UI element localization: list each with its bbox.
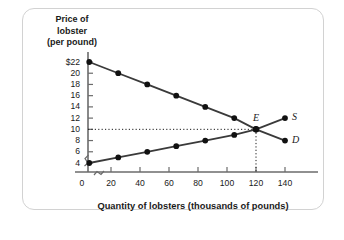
data-point-s — [144, 149, 150, 155]
y-tick-label: 16 — [54, 90, 80, 100]
y-tick-label: 14 — [54, 101, 80, 111]
data-point-d — [144, 82, 150, 88]
data-point-s — [202, 138, 208, 144]
data-point-s — [231, 132, 237, 138]
y-tick-label: 12 — [54, 113, 80, 123]
equilibrium-point-marker — [253, 126, 260, 133]
data-point-d — [173, 93, 179, 99]
x-tick-label: 140 — [274, 178, 296, 188]
data-point-d — [86, 59, 92, 65]
data-point-s — [86, 160, 92, 166]
y-tick-label: 20 — [54, 68, 80, 78]
x-tick-label: 100 — [216, 178, 238, 188]
data-point-s — [115, 154, 121, 160]
x-tick-label: 60 — [158, 178, 180, 188]
y-tick-label: 18 — [54, 79, 80, 89]
equilibrium-label: E — [253, 112, 259, 123]
y-tick-label: 4 — [54, 158, 80, 168]
data-point-s — [173, 143, 179, 149]
x-tick-label: 120 — [245, 178, 267, 188]
data-point-d — [115, 70, 121, 76]
data-point-d — [282, 138, 288, 144]
x-tick-label: 20 — [100, 178, 122, 188]
data-point-s — [282, 115, 288, 121]
y-tick-label: 6 — [54, 146, 80, 156]
x-tick-label: 0 — [71, 178, 93, 188]
curve-label-d: D — [292, 134, 299, 145]
x-tick-label: 40 — [129, 178, 151, 188]
x-tick-label: 80 — [187, 178, 209, 188]
data-point-d — [202, 104, 208, 110]
y-tick-label: 10 — [54, 124, 80, 134]
data-point-d — [231, 115, 237, 121]
y-tick-label: $22 — [54, 57, 80, 67]
y-tick-label: 8 — [54, 135, 80, 145]
curve-label-s: S — [292, 111, 297, 122]
